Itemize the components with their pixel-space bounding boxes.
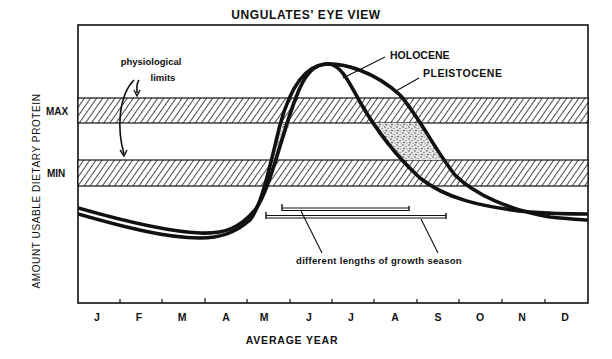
month-label: N <box>518 311 526 323</box>
x-axis-month-labels: J F M A M J J A S O N D <box>94 311 569 323</box>
diagram: UNGULATES' EYE VIEW HOLOCENE PLEISTOCENE… <box>0 0 612 359</box>
month-label: M <box>178 311 187 323</box>
holocene-season-bar <box>282 204 409 211</box>
max-level-label: MAX <box>46 106 69 117</box>
month-label: J <box>94 311 100 323</box>
x-axis-label: AVERAGE YEAR <box>246 334 339 346</box>
pleistocene-curve <box>78 64 588 238</box>
season-leader-1 <box>301 211 322 253</box>
curve-labels: HOLOCENE PLEISTOCENE <box>343 49 502 91</box>
pleistocene-season-bar <box>266 212 446 219</box>
month-label: O <box>476 311 484 323</box>
curves <box>78 64 588 238</box>
y-axis-label: AMOUNT USABLE DIETARY PROTEIN <box>31 93 42 288</box>
month-label: A <box>222 311 230 323</box>
arrow-to-max <box>137 80 139 93</box>
physiological-bands <box>78 98 588 186</box>
growth-season-bars <box>266 204 446 253</box>
growth-season-label: different lengths of growth season <box>296 255 462 266</box>
month-label: S <box>434 311 441 323</box>
month-label: A <box>391 311 399 323</box>
month-label: J <box>348 311 354 323</box>
month-label: J <box>306 311 312 323</box>
month-label: D <box>561 311 569 323</box>
min-level-label: MIN <box>47 168 65 179</box>
holocene-label: HOLOCENE <box>390 49 450 61</box>
pleistocene-label: PLEISTOCENE <box>423 67 502 79</box>
max-band <box>78 98 588 123</box>
limits-label: limits <box>151 72 176 83</box>
min-band <box>78 160 588 186</box>
chart-title: UNGULATES' EYE VIEW <box>231 8 380 22</box>
month-label: M <box>260 311 269 323</box>
season-leader-2 <box>421 219 438 253</box>
pleistocene-leader <box>396 78 419 91</box>
month-label: F <box>136 311 143 323</box>
physiological-label: physiological <box>121 56 182 67</box>
stippled-regions <box>270 123 442 160</box>
